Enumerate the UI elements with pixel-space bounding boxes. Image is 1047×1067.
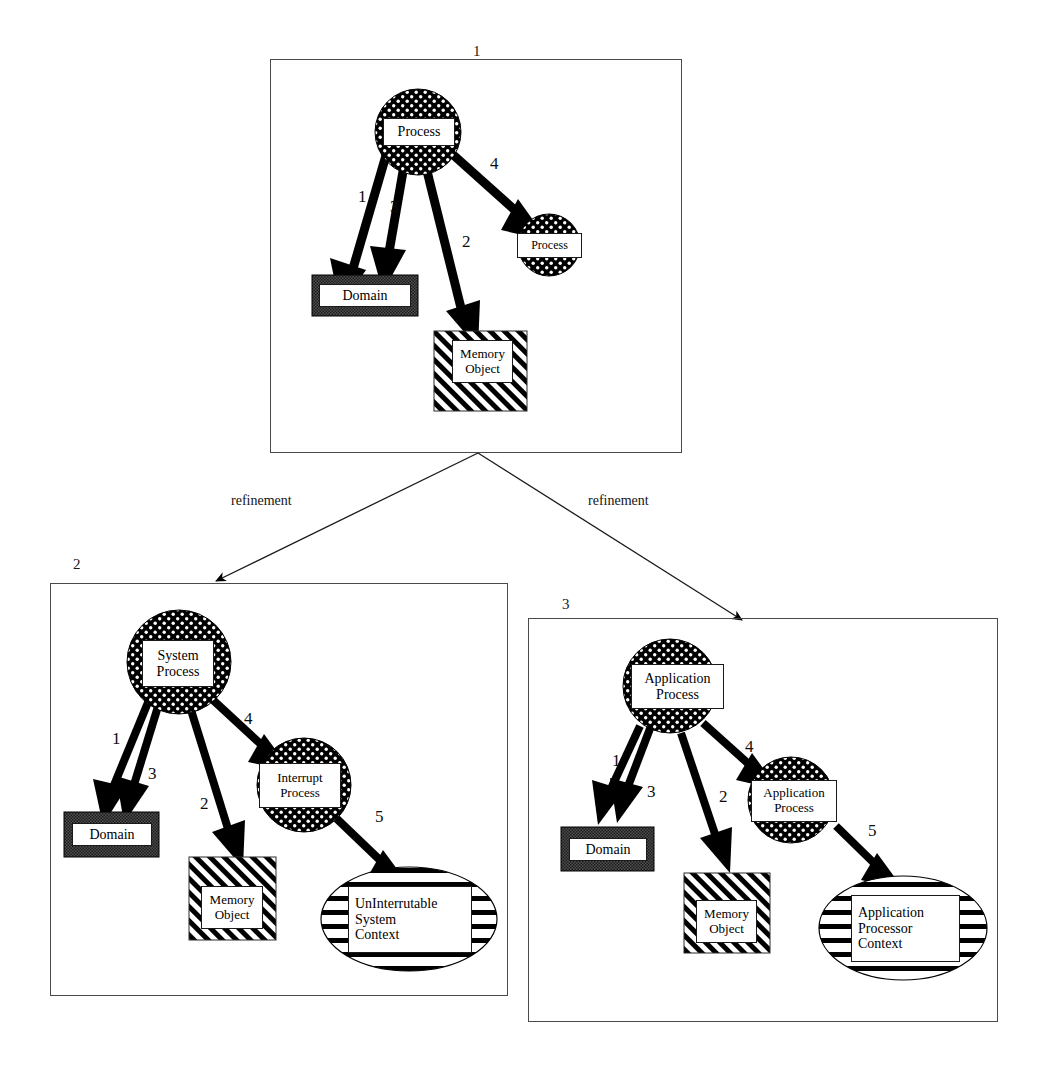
panel-1-number: 1 (473, 44, 481, 59)
label-context-p2-line1: UnInterrutable (355, 896, 437, 912)
label-application-process-2-line1: Application (763, 786, 824, 801)
label-system-process: System Process (142, 640, 214, 687)
panel-1-frame (270, 59, 682, 453)
edge-label-3-p1: 3 (390, 198, 399, 215)
label-application-process: Application Process (631, 664, 724, 709)
edge-label-5-p3: 5 (868, 822, 877, 839)
edge-label-3-p2: 3 (148, 765, 157, 782)
label-memory-object-p2-line1: Memory (210, 893, 255, 908)
panel-2-number: 2 (73, 557, 81, 572)
edge-label-5-p2: 5 (375, 808, 384, 825)
label-context-p3-line1: Application (858, 905, 924, 921)
label-application-process-2: Application Process (751, 780, 837, 822)
label-context-p3-line3: Context (858, 936, 902, 952)
edge-label-2-p2: 2 (200, 795, 209, 812)
edge-label-4-p1: 4 (490, 155, 499, 172)
refinement-line-right (478, 453, 742, 620)
label-uninterrutable-context: UnInterrutable System Context (348, 886, 472, 953)
label-domain-p2-text: Domain (89, 827, 134, 843)
refinement-label-right: refinement (588, 494, 649, 508)
label-application-process-line1: Application (644, 671, 710, 687)
label-interrupt-process: Interrupt Process (259, 763, 341, 808)
label-memory-object-p1: Memory Object (452, 340, 513, 383)
edge-label-1-p1: 1 (358, 188, 367, 205)
label-domain-p3-text: Domain (585, 842, 630, 858)
label-application-process-2-line2: Process (774, 801, 814, 816)
label-interrupt-process-line1: Interrupt (277, 771, 322, 786)
label-domain-p2: Domain (72, 823, 152, 846)
label-context-p3-line2: Processor (858, 921, 912, 937)
label-process-root: Process (383, 118, 455, 146)
edge-label-4-p2: 4 (244, 710, 253, 727)
label-memory-object-p3: Memory Object (696, 900, 757, 943)
label-system-process-line2: Process (157, 664, 200, 680)
edge-label-2-p1: 2 (462, 233, 471, 250)
label-memory-object-p1-line1: Memory (460, 347, 505, 362)
label-application-process-line2: Process (656, 687, 699, 703)
label-system-process-line1: System (157, 648, 198, 664)
label-context-p2-line2: System (355, 912, 396, 928)
label-memory-object-p2-line2: Object (215, 908, 250, 923)
edge-label-2-p3: 2 (719, 788, 728, 805)
label-process-root-text: Process (398, 124, 441, 140)
label-domain-p1-text: Domain (342, 288, 387, 304)
edge-label-4-p3: 4 (745, 738, 754, 755)
edge-label-3-p3: 3 (647, 783, 656, 800)
refinement-line-left (216, 453, 478, 581)
label-memory-object-p2: Memory Object (201, 886, 263, 929)
edge-label-1-p3: 1 (612, 752, 621, 769)
refinement-label-left: refinement (231, 494, 292, 508)
edge-label-1-p2: 1 (112, 730, 121, 747)
diagram-canvas: 1 2 3 refinement refinement Process Proc… (0, 0, 1047, 1067)
label-domain-p3: Domain (569, 838, 647, 861)
label-memory-object-p3-line1: Memory (704, 907, 749, 922)
label-process-child: Process (517, 233, 582, 258)
label-memory-object-p1-line2: Object (465, 362, 500, 377)
label-interrupt-process-line2: Process (280, 786, 320, 801)
label-application-processor-context: Application Processor Context (851, 895, 960, 962)
label-process-child-text: Process (531, 239, 568, 252)
label-memory-object-p3-line2: Object (709, 922, 744, 937)
label-context-p2-line3: Context (355, 927, 399, 943)
panel-3-number: 3 (562, 597, 570, 612)
label-domain-p1: Domain (319, 284, 411, 307)
